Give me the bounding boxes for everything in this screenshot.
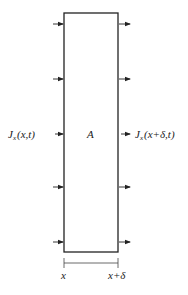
flux-out-label: Jx(x+δ,t) [135,128,175,142]
flux-diagram: A Jx(x,t) Jx(x+δ,t) x x+δ [0,0,188,295]
inflow-arrows [53,24,63,242]
dimension-right-label: x+δ [107,269,126,281]
dimension-left-label: x [60,269,66,281]
outflow-arrows [119,24,130,242]
flux-in-label: Jx(x,t) [8,128,35,142]
region-label: A [86,128,94,140]
width-dimension [64,258,118,268]
